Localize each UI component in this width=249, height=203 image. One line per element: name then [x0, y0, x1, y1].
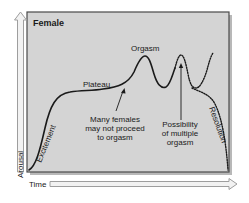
- arousal-axis-arrow: [15, 12, 27, 172]
- svg-text:orgasm: orgasm: [167, 138, 194, 147]
- figure-title: Female: [33, 18, 64, 28]
- svg-text:Many females: Many females: [90, 115, 140, 124]
- svg-text:of multiple: of multiple: [162, 129, 199, 138]
- svg-text:to orgasm: to orgasm: [97, 133, 133, 142]
- svg-text:Possibility: Possibility: [162, 120, 198, 129]
- sexual-response-diagram: Female Arousal Time Excitement Plateau O…: [0, 0, 249, 203]
- time-axis-label: Time: [29, 180, 47, 189]
- phase-label-orgasm: Orgasm: [131, 44, 160, 53]
- time-axis-arrow: [50, 179, 237, 190]
- svg-text:may not proceed: may not proceed: [85, 124, 145, 133]
- arousal-axis-label: Arousal: [16, 151, 25, 178]
- phase-label-plateau: Plateau: [83, 80, 110, 89]
- graph-panel: [27, 12, 229, 172]
